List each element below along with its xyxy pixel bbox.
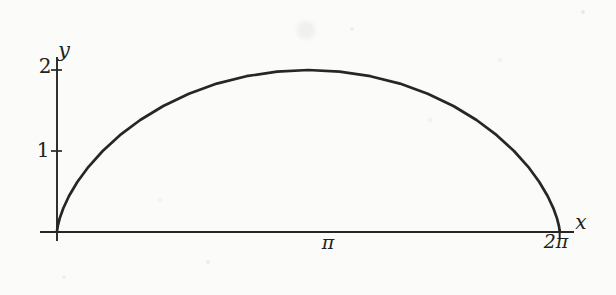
scanned-figure: y x 2 1 π 2π <box>0 0 616 295</box>
x-tick-label-pi: π <box>322 231 335 253</box>
plot-canvas <box>0 0 616 295</box>
tick-marks <box>51 70 560 238</box>
x-axis-label: x <box>575 210 586 234</box>
x-tick-label-2pi: 2π <box>544 230 569 252</box>
y-tick-label-2: 2 <box>39 54 52 78</box>
y-tick-label-1: 1 <box>37 138 50 162</box>
y-axis-label: y <box>58 38 70 62</box>
cycloid-curve <box>57 70 560 232</box>
